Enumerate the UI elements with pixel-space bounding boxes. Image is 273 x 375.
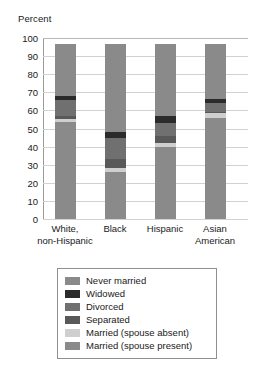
legend-label: Never married <box>86 276 146 286</box>
legend-item: Widowed <box>65 287 209 300</box>
bar-segment <box>205 44 226 98</box>
x-axis-label: Asian American <box>175 223 255 246</box>
bar-segment <box>155 123 176 136</box>
legend-label: Married (spouse present) <box>86 341 192 351</box>
bar-segment <box>205 99 226 104</box>
legend-item: Married (spouse absent) <box>65 326 209 339</box>
bar-segment <box>205 103 226 112</box>
bar <box>155 44 176 219</box>
y-tick-label: 40 <box>27 142 38 152</box>
bar-segment <box>155 147 176 219</box>
bar-segment <box>105 159 126 168</box>
y-tick-label: 10 <box>27 196 38 206</box>
bar <box>105 44 126 219</box>
bar-segment <box>105 132 126 138</box>
y-tick-label: 20 <box>27 178 38 188</box>
bar-segment <box>105 138 126 159</box>
legend-swatch <box>65 342 80 350</box>
legend-item: Divorced <box>65 300 209 313</box>
bar-segment <box>155 136 176 143</box>
bar-segment <box>105 44 126 132</box>
bar-segment <box>155 44 176 115</box>
legend-label: Divorced <box>86 302 124 312</box>
bar-segment <box>55 122 76 219</box>
bar-segment <box>55 119 76 123</box>
bar-segment <box>155 143 176 147</box>
y-tick-label: 70 <box>27 88 38 98</box>
y-tick-label: 50 <box>27 124 38 134</box>
legend-item: Married (spouse present) <box>65 339 209 352</box>
chart-legend: Never marriedWidowedDivorcedSeparatedMar… <box>57 268 217 359</box>
y-tick-label: 60 <box>27 106 38 116</box>
bar-segment <box>155 116 176 123</box>
bar <box>205 44 226 219</box>
legend-item: Never married <box>65 274 209 287</box>
bar-segment <box>55 96 76 100</box>
legend-label: Married (spouse absent) <box>86 328 189 338</box>
legend-label: Widowed <box>86 289 125 299</box>
legend-swatch <box>65 277 80 285</box>
legend-swatch <box>65 316 80 324</box>
y-axis-title: Percent <box>18 13 51 24</box>
bar-segment <box>55 116 76 119</box>
legend-item: Separated <box>65 313 209 326</box>
stacked-bar-chart: Percent 1009080706050403020100 White, no… <box>0 0 273 375</box>
legend-label: Separated <box>86 315 130 325</box>
legend-swatch <box>65 290 80 298</box>
plot-area: 1009080706050403020100 White, non-Hispan… <box>43 38 248 219</box>
y-tick-label: 100 <box>22 34 38 44</box>
bar-segment <box>55 100 76 116</box>
gridline: 0 <box>43 219 248 220</box>
legend-swatch <box>65 303 80 311</box>
bar-segment <box>205 118 226 219</box>
y-tick-label: 80 <box>27 70 38 80</box>
y-tick-label: 90 <box>27 52 38 62</box>
bar <box>55 44 76 219</box>
legend-swatch <box>65 329 80 337</box>
bar-segment <box>105 172 126 219</box>
bar-segment <box>55 44 76 96</box>
bar-segment <box>205 113 226 118</box>
y-tick-label: 30 <box>27 160 38 170</box>
bar-segment <box>205 112 226 113</box>
gridline: 100 <box>43 38 248 39</box>
bar-segment <box>105 168 126 172</box>
